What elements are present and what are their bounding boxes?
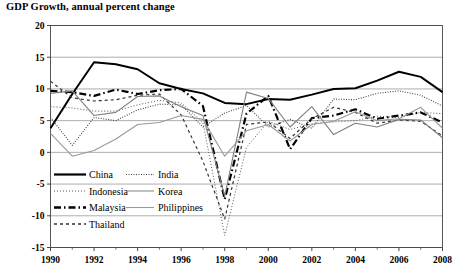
series-line-korea (51, 91, 443, 196)
series-line-malaysia (51, 89, 443, 199)
xtick-label: 2004 (346, 255, 365, 265)
ytick-label: 10 (35, 84, 45, 94)
ytick-label: 5 (40, 116, 45, 126)
legend-label-india: India (158, 169, 179, 180)
legend-label-china: China (89, 169, 113, 180)
plot-area: 20151050-5-10-15199019921994199619982000… (0, 0, 463, 269)
ytick-label: 20 (35, 21, 45, 31)
xtick-label: 2006 (389, 255, 408, 265)
legend-label-indonesia: Indonesia (89, 186, 128, 197)
xtick-label: 2000 (259, 255, 278, 265)
ytick-label: -10 (32, 211, 45, 221)
ytick-label: -5 (37, 179, 45, 189)
xtick-label: 1990 (41, 255, 60, 265)
legend-label-malaysia: Malaysia (89, 202, 126, 213)
chart-svg: 20151050-5-10-15199019921994199619982000… (0, 0, 463, 269)
ytick-label: -15 (32, 243, 45, 253)
xtick-label: 1994 (128, 255, 147, 265)
xtick-label: 2002 (302, 255, 321, 265)
ytick-label: 15 (35, 53, 45, 63)
legend-label-philippines: Philippines (158, 202, 203, 213)
ytick-label: 0 (40, 148, 45, 158)
xtick-label: 1992 (85, 255, 104, 265)
series-line-thailand (51, 81, 443, 219)
legend-label-korea: Korea (158, 186, 183, 197)
legend-label-thailand: Thailand (89, 219, 125, 230)
xtick-label: 2008 (433, 255, 452, 265)
xtick-label: 1998 (215, 255, 234, 265)
xtick-label: 1996 (172, 255, 191, 265)
chart-root: GDP Growth, annual percent change 201510… (0, 0, 463, 269)
